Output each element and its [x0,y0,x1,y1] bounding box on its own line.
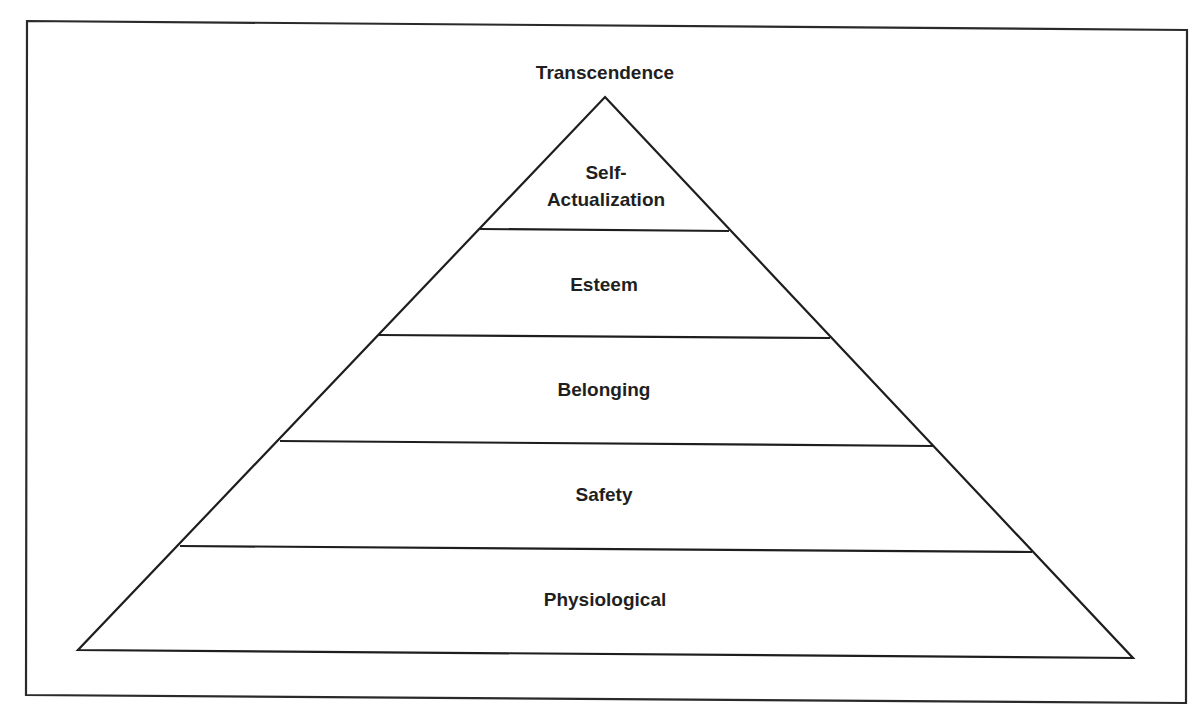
level-label-safety: Safety [575,484,632,505]
level-label-esteem: Esteem [570,274,638,295]
level-label-self-actualization-line2: Actualization [547,189,665,210]
level-label-self-actualization-line1: Self- [585,162,626,183]
hierarchy-diagram: Transcendence Self- Actualization Esteem… [0,0,1202,710]
level-label-belonging: Belonging [558,379,651,400]
apex-label-transcendence: Transcendence [536,62,674,83]
level-label-physiological: Physiological [544,589,666,610]
